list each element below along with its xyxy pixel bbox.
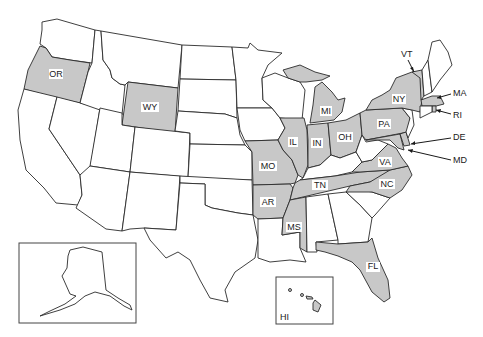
hawaii-inset: HI	[276, 277, 333, 324]
state-colorado[interactable]	[130, 127, 190, 177]
label-il: IL	[289, 137, 297, 147]
state-alaska[interactable]	[40, 247, 132, 316]
state-kansas[interactable]	[188, 144, 252, 180]
label-pa: PA	[378, 119, 389, 129]
label-mi: MI	[321, 106, 331, 116]
island-molokai-maui	[306, 296, 313, 299]
label-tn: TN	[314, 180, 326, 190]
state-north-dakota[interactable]	[180, 45, 236, 80]
state-new-mexico[interactable]	[122, 172, 180, 231]
callout-label-ri: RI	[453, 110, 462, 120]
island-kauai	[289, 289, 292, 292]
state-connecticut[interactable]	[420, 106, 432, 118]
island-hawaii	[313, 300, 321, 312]
callout-arrow-md	[408, 150, 451, 160]
callout-label-vt: VT	[401, 49, 413, 59]
label-fl: FL	[368, 261, 379, 271]
label-mo: MO	[261, 161, 276, 171]
state-new-york[interactable]	[366, 72, 422, 112]
callout-arrow-de	[411, 138, 451, 144]
label-ny: NY	[393, 94, 406, 104]
callout-label-md: MD	[453, 155, 467, 165]
label-hi: HI	[280, 312, 289, 322]
label-ms: MS	[287, 222, 301, 232]
label-va: VA	[379, 157, 390, 167]
label-ar: AR	[262, 197, 275, 207]
alaska-inset	[19, 243, 136, 323]
arrowhead-icon	[436, 109, 441, 113]
us-map: OR WY MO AR IL IN MI OH PA NY VA TN NC M…	[0, 0, 483, 337]
label-oh: OH	[338, 132, 352, 142]
arrowhead-icon	[410, 67, 414, 72]
label-or: OR	[49, 69, 63, 79]
callout-label-de: DE	[453, 132, 466, 142]
label-in: IN	[313, 138, 322, 148]
island-oahu	[301, 294, 304, 297]
state-maine[interactable]	[428, 40, 452, 92]
state-arizona[interactable]	[76, 166, 130, 231]
callout-label-ma: MA	[453, 88, 467, 98]
arrowhead-icon	[408, 149, 413, 153]
label-wy: WY	[143, 102, 158, 112]
state-rhode-island[interactable]	[432, 106, 436, 112]
label-nc: NC	[381, 179, 394, 189]
